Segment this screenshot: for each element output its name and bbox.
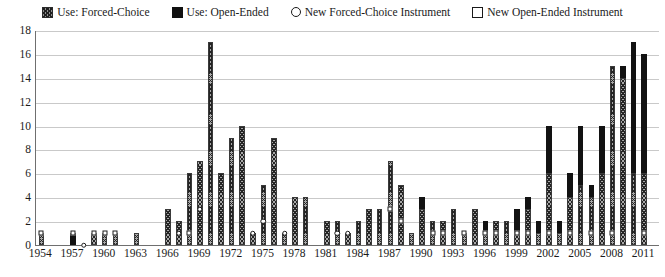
bar-segment-forced-choice bbox=[620, 78, 625, 245]
bar-column-1965[interactable] bbox=[155, 30, 160, 245]
bar-column-2000[interactable] bbox=[525, 30, 530, 245]
x-tick-label: 1993 bbox=[441, 248, 464, 260]
new-open-ended-instrument-marker-icon bbox=[71, 231, 76, 236]
y-tick-label: 6 bbox=[25, 169, 31, 181]
bar-segment-forced-choice bbox=[398, 185, 403, 245]
bar-column-1974[interactable] bbox=[250, 30, 255, 245]
bar-column-1971[interactable] bbox=[218, 30, 223, 245]
bar-column-1991[interactable] bbox=[430, 30, 435, 245]
bar-segment-forced-choice bbox=[324, 221, 329, 245]
bar-column-1994[interactable] bbox=[462, 30, 467, 245]
bar-column-1960[interactable] bbox=[102, 30, 107, 245]
bar-column-1975[interactable] bbox=[261, 30, 266, 245]
bar-column-2003[interactable] bbox=[557, 30, 562, 245]
bar-column-1970[interactable] bbox=[208, 30, 213, 245]
bar-column-1984[interactable] bbox=[356, 30, 361, 245]
x-tick-label: 2002 bbox=[536, 248, 559, 260]
bar-column-1988[interactable] bbox=[398, 30, 403, 245]
bar-column-1976[interactable] bbox=[271, 30, 276, 245]
new-forced-choice-instrument-marker-icon bbox=[261, 218, 267, 224]
new-open-ended-instrument-marker-icon bbox=[568, 231, 573, 236]
new-open-ended-instrument-marker-icon bbox=[187, 231, 192, 236]
bar-column-1996[interactable] bbox=[483, 30, 488, 245]
new-open-ended-instrument-marker-icon bbox=[515, 231, 520, 236]
bar-column-1967[interactable] bbox=[176, 30, 181, 245]
bar-column-2005[interactable] bbox=[578, 30, 583, 245]
bar-column-2004[interactable] bbox=[567, 30, 572, 245]
bar-segment-forced-choice bbox=[208, 42, 213, 245]
bar-column-1992[interactable] bbox=[440, 30, 445, 245]
bar-column-2001[interactable] bbox=[536, 30, 541, 245]
bar-segment-forced-choice bbox=[261, 185, 266, 245]
x-tick-label: 1954 bbox=[29, 248, 52, 260]
bar-column-2008[interactable] bbox=[610, 30, 615, 245]
new-open-ended-instrument-marker-icon bbox=[441, 231, 446, 236]
bar-column-1989[interactable] bbox=[409, 30, 414, 245]
bar-column-1998[interactable] bbox=[504, 30, 509, 245]
legend-label: New Open-Ended Instrument bbox=[487, 6, 622, 18]
bar-segment-forced-choice bbox=[303, 197, 308, 245]
bar-column-1961[interactable] bbox=[113, 30, 118, 245]
new-forced-choice-instrument-marker-icon bbox=[176, 230, 182, 236]
bar-column-1995[interactable] bbox=[472, 30, 477, 245]
x-tick-label: 1984 bbox=[346, 248, 369, 260]
bar-column-2009[interactable] bbox=[620, 30, 625, 245]
y-axis-tick-labels: 024681012141618 bbox=[0, 31, 31, 246]
x-tick-label: 1960 bbox=[92, 248, 115, 260]
legend-label: New Forced-Choice Instrument bbox=[305, 6, 451, 18]
bar-segment-forced-choice bbox=[589, 197, 594, 245]
new-open-ended-instrument-marker-icon bbox=[113, 231, 118, 236]
x-tick-label: 1963 bbox=[124, 248, 147, 260]
bar-column-1959[interactable] bbox=[91, 30, 96, 245]
legend-swatch-icon bbox=[291, 7, 301, 17]
bar-segment-forced-choice bbox=[218, 173, 223, 245]
bar-column-1954[interactable] bbox=[39, 30, 44, 245]
bar-column-1982[interactable] bbox=[335, 30, 340, 245]
bar-column-1978[interactable] bbox=[292, 30, 297, 245]
bar-column-1962[interactable] bbox=[123, 30, 128, 245]
bar-column-1973[interactable] bbox=[239, 30, 244, 245]
bar-segment-open-ended bbox=[641, 54, 646, 173]
bar-column-1977[interactable] bbox=[282, 30, 287, 245]
bar-column-2006[interactable] bbox=[589, 30, 594, 245]
bar-column-1985[interactable] bbox=[366, 30, 371, 245]
x-tick-label: 2008 bbox=[600, 248, 623, 260]
bar-column-1968[interactable] bbox=[187, 30, 192, 245]
bar-column-1957[interactable] bbox=[70, 30, 75, 245]
bar-segment-forced-choice bbox=[292, 197, 297, 245]
bar-segment-forced-choice bbox=[356, 221, 361, 245]
y-tick-label: 12 bbox=[20, 97, 32, 109]
bar-column-1986[interactable] bbox=[377, 30, 382, 245]
bar-column-1963[interactable] bbox=[134, 30, 139, 245]
bar-column-1969[interactable] bbox=[197, 30, 202, 245]
bar-column-1955[interactable] bbox=[49, 30, 54, 245]
bar-column-1999[interactable] bbox=[514, 30, 519, 245]
bar-column-1958[interactable] bbox=[81, 30, 86, 245]
bar-column-2010[interactable] bbox=[631, 30, 636, 245]
bar-column-1983[interactable] bbox=[345, 30, 350, 245]
bar-segment-open-ended bbox=[546, 126, 551, 174]
bar-column-1972[interactable] bbox=[229, 30, 234, 245]
bar-column-2002[interactable] bbox=[546, 30, 551, 245]
bar-column-2007[interactable] bbox=[599, 30, 604, 245]
bar-column-1980[interactable] bbox=[314, 30, 319, 245]
bar-column-1979[interactable] bbox=[303, 30, 308, 245]
bar-column-1987[interactable] bbox=[388, 30, 393, 245]
bar-segment-forced-choice bbox=[567, 197, 572, 245]
bar-column-1990[interactable] bbox=[419, 30, 424, 245]
bar-segment-forced-choice bbox=[377, 209, 382, 245]
bar-column-1993[interactable] bbox=[451, 30, 456, 245]
bar-segment-forced-choice bbox=[134, 233, 139, 245]
bar-column-1964[interactable] bbox=[144, 30, 149, 245]
x-tick-label: 2005 bbox=[568, 248, 591, 260]
y-tick-label: 2 bbox=[25, 216, 31, 228]
bar-segment-forced-choice bbox=[631, 173, 636, 245]
bar-column-1956[interactable] bbox=[60, 30, 65, 245]
bar-column-1981[interactable] bbox=[324, 30, 329, 245]
bar-column-1966[interactable] bbox=[165, 30, 170, 245]
bar-segment-open-ended bbox=[589, 185, 594, 197]
bar-column-2012[interactable] bbox=[652, 30, 657, 245]
new-open-ended-instrument-marker-icon bbox=[102, 231, 107, 236]
bar-column-1997[interactable] bbox=[493, 30, 498, 245]
bar-column-2011[interactable] bbox=[641, 30, 646, 245]
